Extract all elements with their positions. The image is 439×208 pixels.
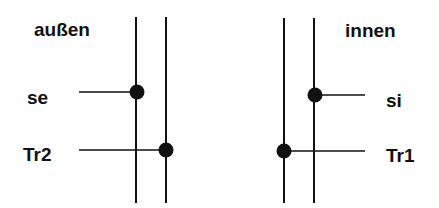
- tr1-dot: [277, 144, 292, 159]
- label-si: si: [386, 90, 402, 111]
- label-se: se: [27, 87, 48, 108]
- se-dot: [130, 85, 145, 100]
- label-tr2: Tr2: [23, 144, 52, 165]
- tr2-dot: [159, 143, 174, 158]
- label-outside: außen: [34, 19, 90, 40]
- membrane-diagram: außen innen se Tr2 si Tr1: [0, 0, 439, 208]
- label-tr1: Tr1: [386, 145, 415, 166]
- si-dot: [308, 88, 323, 103]
- label-inside: innen: [345, 20, 396, 41]
